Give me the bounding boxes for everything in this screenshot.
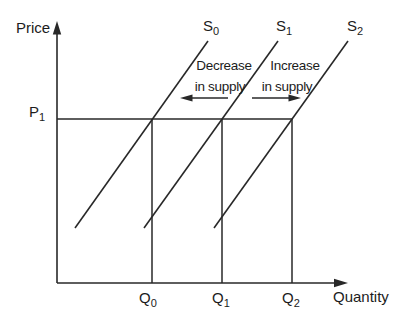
price-tick-sub: 1 xyxy=(39,111,45,123)
increase-annotation-line1: Increase xyxy=(270,58,319,73)
s0-sub: 0 xyxy=(213,25,219,37)
s1-curve-label: S1 xyxy=(276,17,292,37)
q1-sub: 1 xyxy=(224,297,230,309)
price-tick-label: P1 xyxy=(29,103,45,123)
q0-sub: 0 xyxy=(151,297,157,309)
s0-curve-label: S0 xyxy=(203,17,219,37)
y-axis-title: Price xyxy=(16,19,50,36)
s2-sub: 2 xyxy=(357,25,363,37)
q0-base: Q xyxy=(139,289,151,306)
diagram-canvas: Price Quantity P1 Q0 Q1 Q2 S0 S1 S2 Decr… xyxy=(0,0,400,322)
supply-shift-diagram: Price Quantity P1 Q0 Q1 Q2 S0 S1 S2 Decr… xyxy=(0,0,400,322)
increase-annotation-line2: in supply xyxy=(262,79,313,94)
left-arrowhead-icon xyxy=(180,94,193,101)
q1-tick-label: Q1 xyxy=(212,289,230,309)
s0-base: S xyxy=(203,17,213,34)
q2-tick-label: Q2 xyxy=(282,289,300,309)
decrease-annotation-line2: in supply xyxy=(195,79,246,94)
q0-tick-label: Q0 xyxy=(139,289,157,309)
x-axis-arrowhead-icon xyxy=(334,279,348,287)
reference-lines xyxy=(57,119,292,283)
q2-base: Q xyxy=(282,289,294,306)
x-axis-title: Quantity xyxy=(333,288,389,305)
price-tick-base: P xyxy=(29,103,39,120)
decrease-annotation-line1: Decrease xyxy=(196,58,251,73)
s1-base: S xyxy=(276,17,286,34)
q2-sub: 2 xyxy=(294,297,300,309)
s2-base: S xyxy=(347,17,357,34)
s2-curve-label: S2 xyxy=(347,17,363,37)
q1-base: Q xyxy=(212,289,224,306)
shift-arrows xyxy=(180,94,301,101)
y-axis-arrowhead-icon xyxy=(53,21,61,35)
right-arrowhead-icon xyxy=(289,94,302,101)
s0-supply-curve xyxy=(75,41,208,228)
s1-sub: 1 xyxy=(286,25,292,37)
